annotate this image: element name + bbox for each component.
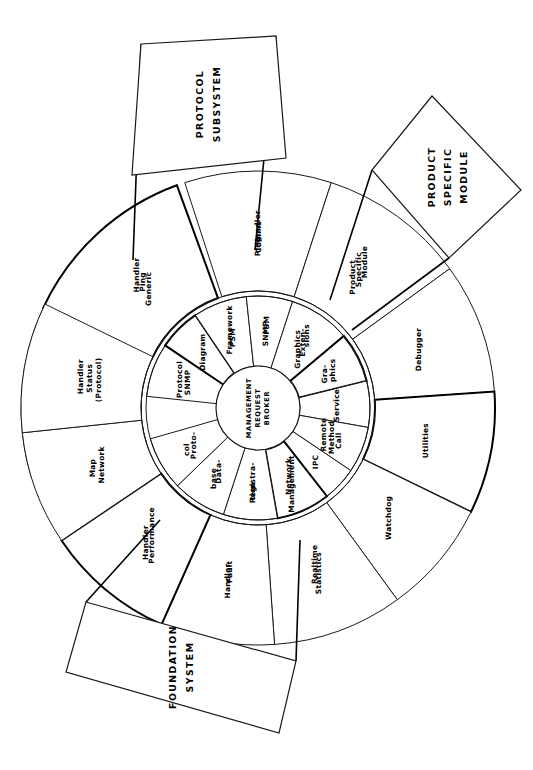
segment-label-line: Call [334, 432, 343, 449]
callout-label-line: SUBSYSTEM [211, 66, 222, 143]
segment-label-line: Utilities [421, 423, 430, 459]
segment-label-line: Module [360, 246, 369, 278]
segment-label-line: Handler [141, 525, 150, 560]
segment-label-line: Map [88, 459, 97, 478]
segment-label-line: sions [302, 324, 311, 347]
callout-label-line: SYSTEM [184, 642, 195, 693]
callout-label-line: PROTOCOL [194, 70, 205, 138]
segment-label-line: Network [97, 445, 106, 483]
segment-label-line: (Protocol) [94, 358, 103, 403]
callout-label-line: MODULE [458, 150, 469, 203]
segment-label-line: col [182, 443, 191, 456]
segment-label-line: PSM [262, 316, 271, 335]
segment-label-line: Diagram [198, 333, 207, 370]
segment-label-line: phics [328, 358, 337, 382]
radial-architecture-diagram: (Protocol)CommsHandlerGenericPingHandler… [0, 0, 533, 770]
callout-box[interactable] [132, 36, 286, 175]
segment-label-line: Handler [223, 563, 232, 598]
segment-label-line: base [209, 468, 218, 489]
segment-label-line: Framework [225, 305, 234, 355]
segment-label-line: tion [248, 482, 257, 500]
segment-label-line: Service [332, 389, 341, 422]
segment-label-line: IPC [311, 455, 320, 470]
segment-label-line: Handler [76, 359, 85, 394]
callout-label-line: FOUNDATION [167, 625, 178, 709]
segment-label-line: Management [287, 455, 296, 513]
callout-label-line: SPECIFIC [442, 148, 453, 206]
segment-label-line: Statistics [314, 552, 323, 594]
callout-label-line: PRODUCT [426, 147, 437, 208]
diagram-canvas: (Protocol)CommsHandlerGenericPingHandler… [0, 0, 533, 770]
segment-label-line: SNMP [183, 369, 192, 395]
segment-label-line: Handler [132, 257, 141, 292]
segment-label-line: Status [85, 364, 94, 393]
segment-label-line: Debugger [414, 328, 423, 371]
segment-label-line: Protocol [175, 361, 184, 398]
segment-label-line: Watchdog [384, 496, 393, 540]
